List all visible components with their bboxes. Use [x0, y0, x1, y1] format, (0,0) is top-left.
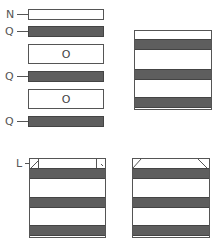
assembled-stack-bottom-left — [29, 158, 106, 238]
dark-layer-2 — [135, 69, 211, 80]
label-q-3: Q — [5, 116, 14, 127]
dark-layer-3 — [135, 97, 211, 108]
label-o-2: O — [62, 93, 71, 106]
part-o-box-2: O — [28, 89, 104, 109]
label-n: N — [6, 9, 14, 20]
label-l: L — [16, 158, 22, 169]
part-q-dark-bar-3 — [28, 116, 104, 127]
dark-layer-1 — [30, 168, 105, 179]
dark-layer-2 — [30, 197, 105, 208]
dark-layer-3 — [133, 225, 209, 236]
part-o-box-1: O — [28, 44, 104, 64]
label-q-1: Q — [5, 26, 14, 37]
part-q-dark-bar-2 — [28, 71, 104, 82]
part-q-dark-bar-1 — [28, 26, 104, 37]
part-n-thin-bar — [28, 9, 104, 20]
assembled-stack-top-right — [134, 30, 212, 110]
dark-layer-2 — [133, 197, 209, 208]
dark-layer-1 — [135, 39, 211, 50]
label-o-1: O — [62, 48, 71, 61]
dark-layer-3 — [30, 225, 105, 236]
label-q-2: Q — [5, 71, 14, 82]
assembled-stack-bottom-right — [132, 158, 210, 238]
dark-layer-1 — [133, 168, 209, 179]
